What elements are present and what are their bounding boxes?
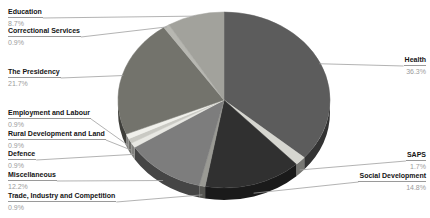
leader-line: [319, 64, 403, 66]
slice-label-name: The Presidency: [8, 68, 61, 78]
slice-label-percent: 0.9%: [8, 162, 24, 170]
leader-line: [300, 161, 406, 170]
slice-label: Social Development14.8%: [358, 172, 426, 192]
slice-label-name: Education: [8, 8, 43, 18]
slice-label-percent: 12.2%: [8, 183, 28, 191]
slice-label-name: Miscellaneous: [8, 171, 57, 181]
slice-label: Trade, Industry and Competition0.9%: [8, 192, 116, 212]
slice-label-percent: 0.9%: [8, 204, 24, 212]
slice-label-name: Social Development: [358, 172, 426, 182]
slice-label-percent: 1.7%: [410, 163, 426, 171]
slice-label-percent: 0.9%: [8, 121, 24, 129]
slice-label-name: Correctional Services: [8, 27, 81, 37]
slice-label: SAPS1.7%: [406, 151, 426, 171]
slice-label: Miscellaneous12.2%: [8, 171, 57, 191]
slice-label-percent: 0.9%: [8, 39, 24, 47]
pie-slice-side-3: [199, 186, 205, 199]
slice-label-name: SAPS: [406, 151, 426, 161]
slice-label-name: Rural Development and Land: [8, 130, 106, 140]
slice-label: Education8.7%: [8, 8, 43, 28]
slice-label: The Presidency21.7%: [8, 68, 61, 88]
leader-line: [36, 154, 134, 160]
slice-label-percent: 8.7%: [8, 20, 24, 28]
slice-label-percent: 0.9%: [8, 142, 24, 150]
slice-label-percent: 21.7%: [8, 80, 28, 88]
leader-line: [43, 16, 196, 18]
slice-label-name: Employment and Labour: [8, 109, 91, 119]
budget-pie-chart: Health36.3%SAPS1.7%Social Development14.…: [0, 0, 430, 218]
slice-label: Defence0.9%: [8, 150, 36, 170]
slice-label-name: Defence: [8, 150, 36, 160]
leader-line: [61, 76, 124, 78]
slice-label: Correctional Services0.9%: [8, 27, 81, 47]
slice-label: Employment and Labour0.9%: [8, 109, 91, 129]
slice-label-percent: 14.8%: [406, 184, 426, 192]
leader-line: [116, 195, 202, 202]
slice-label-percent: 36.3%: [406, 68, 426, 76]
slice-label-name: Trade, Industry and Competition: [8, 192, 116, 202]
slice-label: Health36.3%: [404, 56, 426, 76]
slice-label: Rural Development and Land0.9%: [8, 130, 106, 150]
slice-label-name: Health: [404, 56, 426, 66]
